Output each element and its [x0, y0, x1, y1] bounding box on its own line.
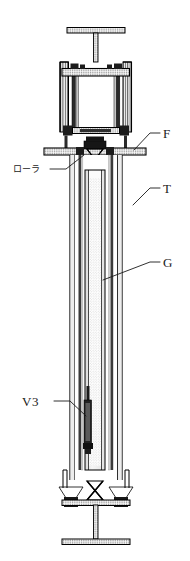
annotation-t: T [133, 181, 171, 205]
leader-line-f [134, 133, 160, 150]
technical-figure: F T G V3 ローラ [0, 0, 190, 561]
label-roller: ローラ [13, 164, 40, 174]
label-g: G [163, 255, 173, 270]
bottom-base-group [62, 505, 130, 545]
upper-flange-group [44, 137, 146, 157]
leader-line-t [133, 188, 160, 205]
label-f: F [163, 126, 171, 141]
label-v3: V3 [22, 394, 39, 409]
annotation-f: F [134, 126, 171, 150]
label-t: T [163, 181, 171, 196]
figure-drawing: F T G V3 ローラ [0, 0, 190, 561]
top-handle-group [67, 28, 125, 63]
top-frame-group [60, 62, 132, 132]
